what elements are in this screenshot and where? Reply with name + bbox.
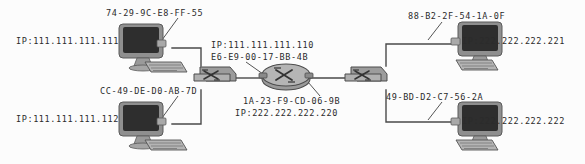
computer-icon-pc-a[interactable] [115, 22, 195, 76]
router-right-ip-label: IP:222.222.222.220 [235, 108, 338, 119]
pc-b-ip-label: IP:111.111.111.112 [16, 114, 119, 125]
router-left-ip-label: IP:111.111.111.110 [211, 40, 314, 51]
pc-c-ip-label: IP:222.222.222.221 [462, 36, 565, 47]
pc-a-ip-label: IP:111.111.111.111 [16, 36, 119, 47]
pc-d-ip-label: IP:222.222.222.222 [462, 116, 565, 127]
network-diagram-canvas: 74-29-9C-E8-FF-55 IP:111.111.111.111 CC-… [0, 0, 585, 164]
switch-icon-right[interactable] [343, 63, 389, 91]
router-left-mac-label: E6-E9-00-17-BB-4B [211, 52, 308, 63]
computer-icon-pc-c[interactable] [440, 20, 520, 74]
switch-icon-left[interactable] [192, 63, 238, 91]
computer-icon-pc-d[interactable] [440, 100, 520, 154]
router-icon[interactable] [258, 60, 314, 94]
pc-a-mac-label: 74-29-9C-E8-FF-55 [106, 8, 203, 19]
pc-c-mac-label: 88-B2-2F-54-1A-0F [408, 11, 505, 22]
computer-icon-pc-b[interactable] [115, 100, 195, 154]
pc-b-mac-label: CC-49-DE-D0-AB-7D [100, 86, 197, 97]
pc-d-mac-label: 49-BD-D2-C7-56-2A [386, 92, 483, 103]
router-right-mac-label: 1A-23-F9-CD-06-9B [243, 96, 340, 107]
